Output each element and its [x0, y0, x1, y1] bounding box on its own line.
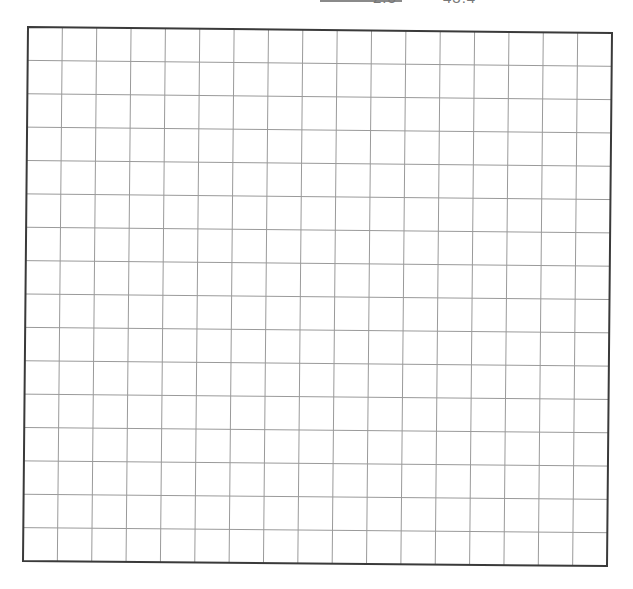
grid-horizontal-line: [25, 327, 609, 332]
grid-horizontal-line: [26, 294, 610, 300]
grid-horizontal-line: [26, 227, 610, 233]
grid-horizontal-line: [24, 494, 608, 499]
grid-horizontal-line: [26, 261, 610, 267]
grid-horizontal-line: [27, 127, 611, 133]
grid-horizontal-line: [25, 394, 609, 399]
grid-horizontal-line: [23, 528, 607, 533]
grid-horizontal-line: [24, 428, 608, 433]
grid-horizontal-line: [24, 461, 608, 466]
grid-horizontal-line: [27, 161, 611, 167]
grid-canvas: [0, 0, 633, 589]
grid-paper: [0, 0, 633, 589]
grid-horizontal-line: [28, 60, 612, 66]
grid-horizontal-line: [25, 361, 609, 366]
grid-horizontal-line: [26, 194, 610, 200]
grid-horizontal-line: [27, 94, 611, 100]
